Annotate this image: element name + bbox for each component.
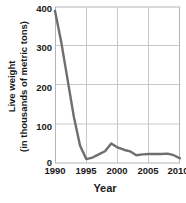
- x-tick-label-2005: 2005: [133, 166, 163, 176]
- chart-container: Live weight (in thousands of metric tons…: [0, 0, 186, 203]
- x-axis-title: Year: [0, 182, 186, 194]
- x-axis-tick-labels: 1990 1995 2000 2005 2010: [0, 166, 186, 180]
- x-axis-title-text: Year: [69, 182, 116, 194]
- x-tick-label-2010: 2010: [163, 166, 186, 176]
- x-tick-label-1995: 1995: [71, 166, 101, 176]
- x-tick-label-2000: 2000: [102, 166, 132, 176]
- grid-lines: [55, 7, 180, 163]
- x-tick-label-1990: 1990: [40, 166, 70, 176]
